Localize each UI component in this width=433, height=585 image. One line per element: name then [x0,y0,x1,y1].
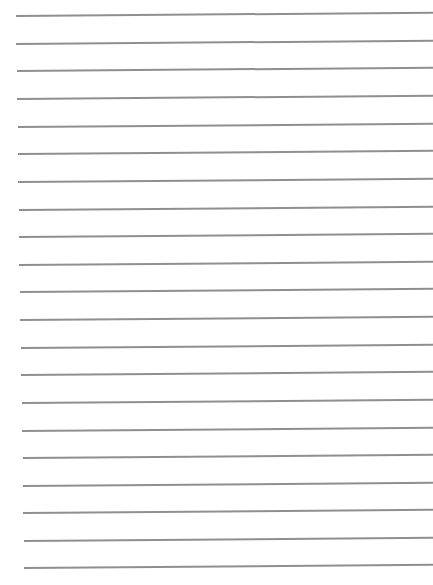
ruled-line [18,123,433,128]
ruled-line [22,399,433,404]
ruled-line [21,371,433,376]
ruled-line [17,95,433,100]
ruled-line [23,482,433,487]
ruled-line [17,67,433,72]
ruled-line [24,537,433,542]
ruled-line [16,40,433,45]
ruled-line [20,288,433,293]
ruled-line [22,427,433,432]
ruled-line [19,233,433,238]
ruled-line [16,12,433,17]
ruled-line [18,150,433,155]
ruled-line [18,178,433,183]
ruled-line [19,206,433,211]
ruled-line [20,316,433,321]
ruled-line [21,344,433,349]
ruled-line [23,454,433,459]
ruled-line [19,261,433,266]
ruled-line [24,564,433,569]
ruled-line [23,509,433,514]
